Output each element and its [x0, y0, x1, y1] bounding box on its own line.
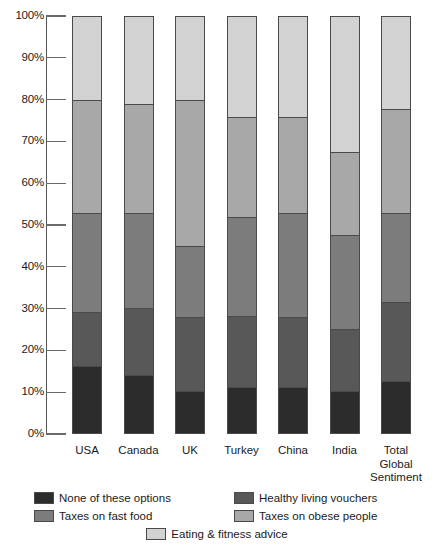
y-axis-tick: [46, 141, 66, 142]
legend-swatch-icon: [34, 510, 54, 522]
y-axis-tick: [46, 433, 66, 434]
bar-segment: [228, 217, 256, 317]
legend-item-taxes-on-fast-food: Taxes on fast food: [34, 510, 234, 522]
legend-swatch-icon: [34, 492, 54, 504]
legend-swatch-icon: [234, 510, 254, 522]
bar-segment: [382, 381, 410, 433]
y-axis-tick-label: 0%: [0, 427, 44, 439]
y-axis-tick-label: 60%: [0, 176, 44, 188]
bar-segment: [382, 302, 410, 381]
legend-label: Taxes on fast food: [59, 510, 152, 522]
bar-segment: [176, 17, 204, 100]
bar-segment: [176, 246, 204, 317]
bar-segment: [279, 117, 307, 213]
bar-segment: [228, 387, 256, 433]
bar-segment: [73, 213, 101, 313]
plot-area: 0%10%20%30%40%50%60%70%80%90%100%: [0, 0, 434, 440]
y-axis-tick: [46, 266, 66, 267]
bar-segment: [331, 152, 359, 235]
bar-segment: [125, 17, 153, 104]
y-axis-tick-label: 10%: [0, 385, 44, 397]
y-axis-tick-label: 20%: [0, 343, 44, 355]
bar-segment: [125, 308, 153, 375]
bar-segment: [382, 109, 410, 213]
y-axis-tick-label: 90%: [0, 51, 44, 63]
y-axis-tick-label: 70%: [0, 134, 44, 146]
bar-segment: [279, 213, 307, 317]
x-axis-label: TotalGlobalSentiment: [361, 444, 431, 485]
y-axis-tick-label: 50%: [0, 218, 44, 230]
bar-segment: [176, 317, 204, 392]
bar-segment: [331, 391, 359, 433]
y-axis-tick-label: 80%: [0, 93, 44, 105]
bar-segment: [125, 375, 153, 433]
bar-segment: [176, 100, 204, 246]
legend-item-none-of-these-options: None of these options: [34, 492, 234, 504]
y-axis-tick: [46, 392, 66, 393]
y-axis-tick: [46, 224, 66, 225]
bar-india: [330, 16, 360, 434]
bar-uk: [175, 16, 205, 434]
bar-segment: [382, 17, 410, 109]
bar-segment: [331, 329, 359, 391]
y-axis-tick: [46, 308, 66, 309]
legend-label: Taxes on obese people: [259, 510, 377, 522]
y-axis-tick: [46, 57, 66, 58]
legend-label: Healthy living vouchers: [259, 492, 377, 504]
bar-segment: [279, 387, 307, 433]
bar-segment: [73, 17, 101, 100]
bar-segment: [228, 17, 256, 117]
y-axis-tick: [46, 15, 66, 16]
y-axis-tick: [46, 350, 66, 351]
legend-row-1: None of these options Healthy living vou…: [0, 492, 434, 504]
y-axis-tick: [46, 183, 66, 184]
bar-segment: [279, 317, 307, 388]
legend-row-3: Eating & fitness advice: [0, 528, 434, 540]
bar-usa: [72, 16, 102, 434]
bar-segment: [176, 391, 204, 433]
legend-swatch-icon: [146, 528, 166, 540]
legend-swatch-icon: [234, 492, 254, 504]
legend-item-taxes-on-obese-people: Taxes on obese people: [234, 510, 434, 522]
legend-label: None of these options: [59, 492, 171, 504]
bar-segment: [279, 17, 307, 117]
chart-legend: None of these options Healthy living vou…: [0, 492, 434, 546]
bar-china: [278, 16, 308, 434]
bar-total-global-sentiment: [381, 16, 411, 434]
bar-segment: [228, 316, 256, 387]
bar-segment: [331, 235, 359, 329]
stacked-bar-chart: 0%10%20%30%40%50%60%70%80%90%100% USACan…: [0, 0, 434, 559]
bar-segment: [382, 213, 410, 302]
bar-segment: [73, 100, 101, 212]
legend-row-2: Taxes on fast food Taxes on obese people: [0, 510, 434, 522]
legend-item-healthy-living-vouchers: Healthy living vouchers: [234, 492, 434, 504]
y-axis-tick-label: 30%: [0, 302, 44, 314]
legend-label: Eating & fitness advice: [171, 528, 287, 540]
y-axis-tick-label: 40%: [0, 260, 44, 272]
bar-segment: [125, 104, 153, 212]
bar-canada: [124, 16, 154, 434]
y-axis-tick: [46, 99, 66, 100]
bar-segment: [73, 366, 101, 433]
bar-segment: [125, 213, 153, 309]
bar-segment: [331, 17, 359, 152]
y-axis-tick-label: 100%: [0, 9, 44, 21]
bar-segment: [73, 312, 101, 366]
bar-segment: [228, 117, 256, 217]
bar-turkey: [227, 16, 257, 434]
legend-item-eating-and-fitness-advice: Eating & fitness advice: [146, 528, 287, 540]
